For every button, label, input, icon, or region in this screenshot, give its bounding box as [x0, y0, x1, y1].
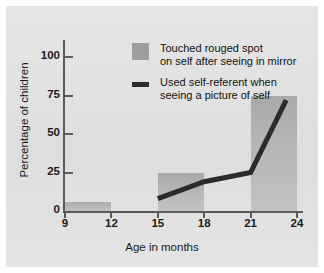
legend-bar-line1: Touched rouged spot	[160, 42, 296, 55]
legend-line-swatch-icon	[132, 82, 149, 87]
legend-line-text: Used self-referent when seeing a picture…	[160, 76, 277, 101]
legend-line-line1: Used self-referent when	[160, 76, 277, 89]
figure-panel: 0255075100 91215182124 Percentage of chi…	[6, 6, 318, 267]
x-tick-label-9: 9	[50, 217, 80, 229]
x-tick-label-15: 15	[143, 217, 173, 229]
legend-item-bar: Touched rouged spot on self after seeing…	[132, 42, 310, 67]
legend: Touched rouged spot on self after seeing…	[132, 42, 310, 110]
legend-bar-swatch-icon	[132, 43, 149, 60]
x-axis-line	[63, 211, 303, 213]
x-tick-label-18: 18	[189, 217, 219, 229]
y-tick-75	[65, 95, 73, 97]
legend-bar-text: Touched rouged spot on self after seeing…	[160, 42, 296, 67]
y-tick-50	[65, 133, 73, 135]
legend-item-line: Used self-referent when seeing a picture…	[132, 76, 310, 101]
x-axis-title: Age in months	[6, 241, 318, 253]
legend-bar-line2: on self after seeing in mirror	[160, 55, 296, 68]
y-axis-line	[63, 40, 65, 213]
y-tick-100	[65, 56, 73, 58]
x-tick-label-21: 21	[236, 217, 266, 229]
bar-21-24	[251, 96, 297, 212]
plot-area: 0255075100 91215182124 Percentage of chi…	[6, 6, 318, 267]
x-tick-label-12: 12	[96, 217, 126, 229]
y-tick-25	[65, 172, 73, 174]
bar-15-18	[158, 173, 204, 212]
y-axis-title: Percentage of children	[18, 50, 30, 190]
x-tick-label-24: 24	[282, 217, 312, 229]
bar-9-12	[65, 202, 111, 211]
legend-line-line2: seeing a picture of self	[160, 89, 277, 102]
y-tick-label-0: 0	[16, 203, 60, 215]
